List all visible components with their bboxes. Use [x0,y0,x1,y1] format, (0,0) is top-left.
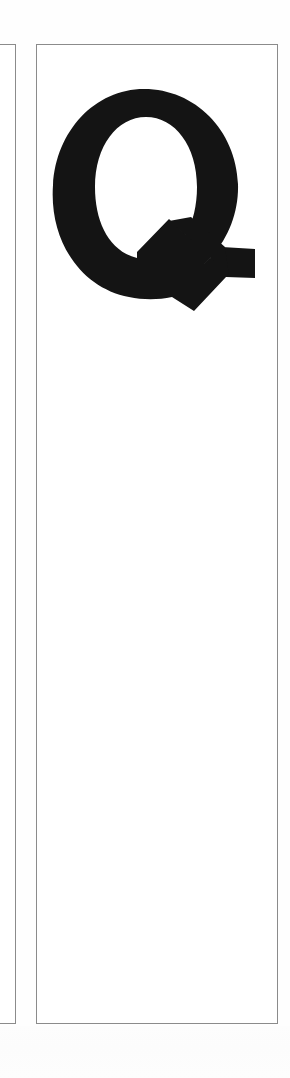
initial-capital-block: Q [37,45,277,305]
initial-capital-q: Q [51,89,255,311]
column-frame: Q [36,44,278,1024]
partial-column-frame [0,44,16,1024]
page-canvas: Q [0,0,290,1078]
initial-capital-glyph [53,89,255,311]
page-bottom-margin [0,1026,290,1078]
